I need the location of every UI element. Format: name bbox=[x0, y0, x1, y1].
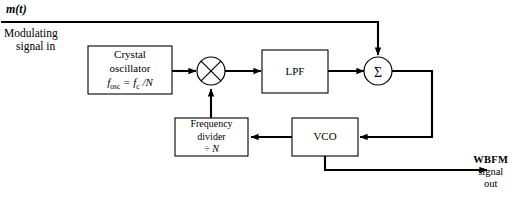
block-crystal-oscillator bbox=[88, 46, 172, 94]
block-vco bbox=[292, 118, 358, 156]
block-lpf bbox=[262, 50, 328, 93]
wbfm-output-line2: signal bbox=[478, 166, 503, 178]
summer-symbol: Σ bbox=[366, 61, 390, 85]
wbfm-output-label: WBFM signal out bbox=[473, 154, 508, 189]
modulating-signal-label: Modulating signal in bbox=[4, 27, 58, 53]
wbfm-block-diagram: m(t) Modulating signal in Crystal oscill… bbox=[0, 0, 514, 204]
modulating-signal-line2: signal in bbox=[4, 40, 58, 53]
wire-vco-to-output bbox=[325, 155, 487, 170]
block-frequency-divider bbox=[175, 118, 248, 156]
modulating-signal-line1: Modulating bbox=[4, 27, 58, 39]
diagram-wires bbox=[0, 0, 514, 204]
wbfm-output-line1: WBFM bbox=[473, 154, 508, 166]
wbfm-output-line3: out bbox=[484, 178, 497, 190]
mt-signal-label: m(t) bbox=[6, 3, 27, 16]
